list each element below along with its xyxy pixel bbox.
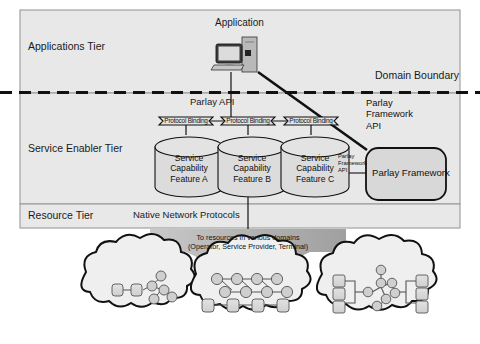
parlay-framework-box-label: Parlay Framework (372, 168, 440, 178)
pf-api-line-1: Parlay (366, 97, 436, 108)
pf-api-line-3: API (366, 120, 436, 131)
parlay-framework-api-label: Parlay Framework API (366, 97, 436, 131)
scf-label-c: Service Capability Feature C (282, 153, 348, 184)
pf-api-line-2: Framework (366, 108, 436, 119)
diagram-canvas: Applications Tier Service Enabler Tier R… (0, 0, 480, 344)
protocol-binding-label-b: Protocol Binding (225, 118, 271, 125)
protocol-binding-label-a: Protocol Binding (163, 118, 209, 125)
tier-label-service-enabler: Service Enabler Tier (28, 143, 123, 154)
protocol-binding-label-c: Protocol Binding (288, 118, 334, 125)
scf-a-line-2: Capability (156, 163, 222, 173)
domain-boundary-label: Domain Boundary (375, 70, 459, 81)
tier-label-resource: Resource Tier (28, 210, 93, 221)
cloud-left (81, 234, 194, 307)
application-label: Application (215, 18, 264, 29)
scf-c-line-1: Service (282, 153, 348, 163)
scf-b-line-2: Capability (219, 163, 285, 173)
tier-label-applications: Applications Tier (28, 41, 105, 52)
scf-b-line-3: Feature B (219, 174, 285, 184)
scf-b-line-1: Service (219, 153, 285, 163)
scf-c-line-3: Feature C (282, 174, 348, 184)
resources-arrow-caption: To resources in various domains (Operato… (182, 233, 314, 251)
scf-label-a: Service Capability Feature A (156, 153, 222, 184)
scf-c-line-2: Capability (282, 163, 348, 173)
native-network-protocols-label: Native Network Protocols (133, 210, 240, 220)
scf-a-line-1: Service (156, 153, 222, 163)
parlay-api-label: Parlay API (190, 97, 234, 107)
cloud-right (317, 235, 437, 313)
scf-label-b: Service Capability Feature B (219, 153, 285, 184)
scf-a-line-3: Feature A (156, 174, 222, 184)
